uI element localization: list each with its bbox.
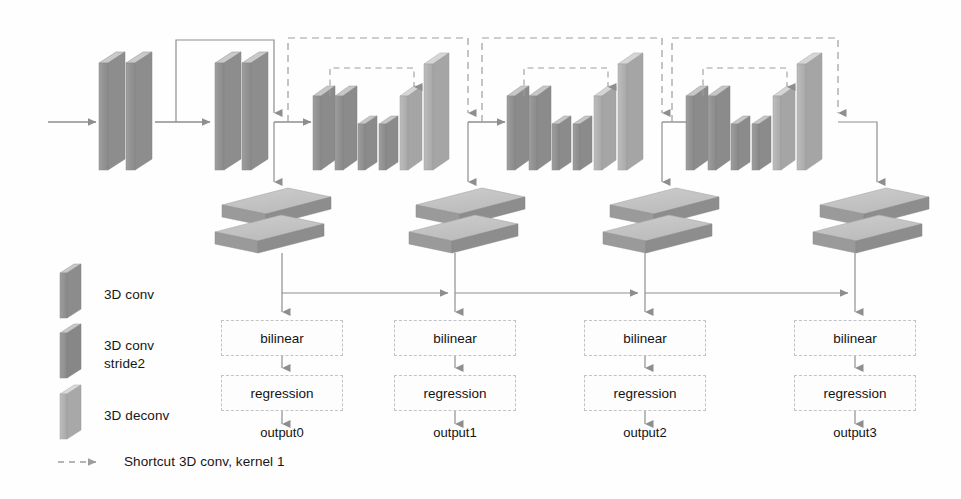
regression-label-1: regression xyxy=(394,386,516,401)
bilinear-label-3: bilinear xyxy=(794,331,916,346)
output-label-3: output3 xyxy=(794,425,916,440)
feature-slab-stack-2 xyxy=(603,188,719,253)
conv-block-group-a xyxy=(99,52,152,170)
output-label-2: output2 xyxy=(584,425,706,440)
legend-label-stride2-line1: 3D conv xyxy=(104,338,154,354)
regression-label-2: regression xyxy=(584,386,706,401)
stage-internal-arrows xyxy=(282,356,855,424)
hourglass-module-2 xyxy=(482,38,662,170)
hourglass-module-3 xyxy=(672,38,838,170)
regression-label-0: regression xyxy=(221,386,343,401)
figure-canvas: bilinear regression output0 bilinear reg… xyxy=(0,0,961,499)
hourglass-module-1 xyxy=(288,38,468,170)
feature-slab-stack-0 xyxy=(215,188,331,253)
connector-hg1-out xyxy=(468,122,505,182)
feature-slab-stack-3 xyxy=(813,188,929,253)
conv-block-group-b xyxy=(215,52,268,170)
legend-label-shortcut: Shortcut 3D conv, kernel 1 xyxy=(124,454,285,470)
legend-conv-stride2-block-icon xyxy=(60,324,81,378)
regression-label-3: regression xyxy=(794,386,916,401)
output-label-1: output1 xyxy=(394,425,516,440)
output-label-0: output0 xyxy=(221,425,343,440)
bilinear-label-2: bilinear xyxy=(584,331,706,346)
legend-label-deconv: 3D deconv xyxy=(104,408,169,424)
bilinear-label-0: bilinear xyxy=(221,331,343,346)
feature-slab-stack-1 xyxy=(409,188,525,253)
legend-label-conv: 3D conv xyxy=(104,287,154,303)
bilinear-label-1: bilinear xyxy=(394,331,516,346)
legend-deconv-block-icon xyxy=(60,385,81,439)
aggregation-bus xyxy=(282,253,855,312)
connector-hg3-out xyxy=(838,122,877,182)
legend-conv-block-icon xyxy=(60,264,81,318)
legend-label-stride2-line2: stride2 xyxy=(104,356,145,372)
